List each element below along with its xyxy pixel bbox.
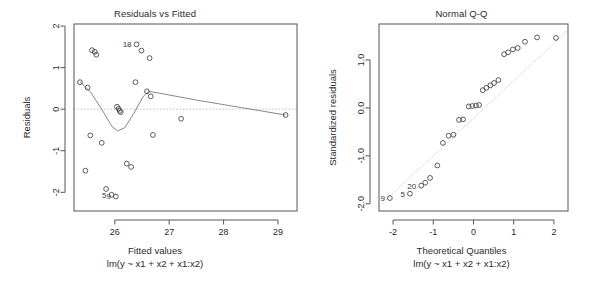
data-point xyxy=(423,180,428,185)
x-tick-label: -2 xyxy=(389,227,397,237)
data-point xyxy=(496,78,501,83)
y-tick-label: -1.0 xyxy=(356,148,366,164)
x-tick-label: 2 xyxy=(551,227,556,237)
data-points xyxy=(387,35,558,200)
outlier-label: 9 xyxy=(106,192,111,201)
x-tick-label: 28 xyxy=(219,227,229,237)
data-point xyxy=(99,140,104,145)
x-tick-label: 26 xyxy=(110,227,120,237)
outlier-label: 20 xyxy=(407,182,416,191)
x-tick-label: -1 xyxy=(429,227,437,237)
data-points xyxy=(78,42,288,199)
data-point xyxy=(113,194,118,199)
data-point xyxy=(441,141,446,146)
y-axis-title: Standardized residuals xyxy=(327,69,338,166)
data-point xyxy=(129,165,134,170)
data-point xyxy=(83,168,88,173)
data-point xyxy=(506,50,511,55)
y-tick-label: 0.0 xyxy=(356,102,366,115)
data-point xyxy=(446,133,451,138)
data-point xyxy=(511,47,516,52)
y-tick-label: -2 xyxy=(51,188,61,196)
data-point xyxy=(150,133,155,138)
data-point xyxy=(451,132,456,137)
x-axis-title-right: Theoretical Quantiles xyxy=(310,245,613,256)
data-point xyxy=(408,191,413,196)
data-point xyxy=(139,48,144,53)
y-tick-label: 1 xyxy=(51,65,61,70)
outlier-label: 9 xyxy=(380,194,385,203)
x-tick-label: 29 xyxy=(273,227,283,237)
y-tick-label: -1 xyxy=(51,147,61,155)
panel-normal-qq: Normal Q-Q 9520-2-1012-2.0-1.00.01.0Stan… xyxy=(310,0,613,290)
y-tick-label: 0 xyxy=(51,107,61,112)
x-tick-label: 0 xyxy=(471,227,476,237)
data-point xyxy=(179,116,184,121)
loess-smoother-line xyxy=(80,82,286,131)
panel-residuals-vs-fitted: Residuals vs Fitted 185926272829-2-1012R… xyxy=(0,0,310,290)
data-point xyxy=(134,42,139,47)
model-formula-caption-right: lm(y ~ x1 + x2 + x1:x2) xyxy=(310,258,613,269)
data-point xyxy=(88,133,93,138)
data-point xyxy=(147,56,152,61)
data-point xyxy=(124,161,129,166)
y-axis-title: Residuals xyxy=(21,96,32,138)
outlier-label: 18 xyxy=(123,40,132,49)
data-point xyxy=(477,103,482,108)
y-tick-label: -2.0 xyxy=(356,196,366,212)
data-point xyxy=(492,81,497,86)
y-tick-label: 2 xyxy=(51,24,61,29)
qq-reference-line xyxy=(379,30,568,206)
data-point xyxy=(535,35,540,40)
y-tick-label: 1.0 xyxy=(356,54,366,67)
data-point xyxy=(554,36,559,41)
data-point xyxy=(133,80,138,85)
plot-box xyxy=(74,24,297,211)
model-formula-caption-left: lm(y ~ x1 + x2 + x1:x2) xyxy=(0,258,310,269)
data-point xyxy=(435,163,440,168)
outlier-label: 5 xyxy=(401,190,406,199)
x-tick-label: 27 xyxy=(164,227,174,237)
figure-root: Residuals vs Fitted 185926272829-2-1012R… xyxy=(0,0,613,290)
data-point xyxy=(523,39,528,44)
data-point xyxy=(515,46,520,51)
data-point xyxy=(428,176,433,181)
x-axis-title-left: Fitted values xyxy=(0,245,310,256)
x-tick-label: 1 xyxy=(511,227,516,237)
data-point xyxy=(148,94,153,99)
